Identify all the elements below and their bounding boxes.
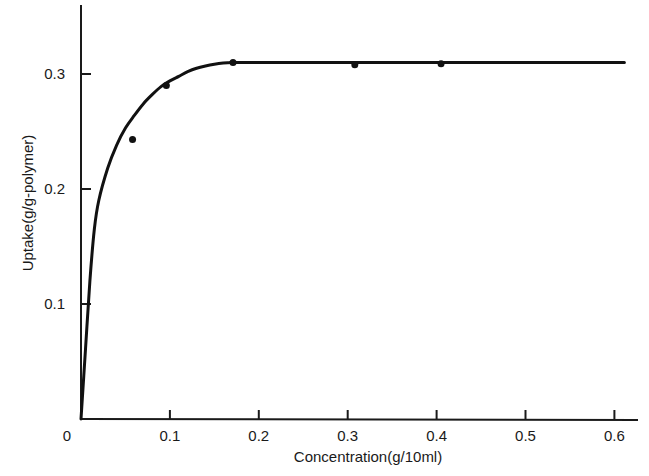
y-tick-label: 0.1: [44, 295, 65, 312]
x-tick-label: 0.6: [604, 427, 625, 444]
data-point: [163, 82, 170, 89]
points-layer: [129, 59, 444, 143]
data-point: [129, 136, 136, 143]
data-point: [230, 59, 237, 66]
y-axis-title: Uptake(g/g-polymer): [19, 135, 36, 272]
x-tick-label: 0: [63, 427, 71, 444]
x-axis-title: Concentration(g/10ml): [294, 448, 442, 465]
y-ticks: 0.10.20.3: [44, 65, 91, 312]
x-tick-label: 0.3: [337, 427, 358, 444]
y-tick-label: 0.3: [44, 65, 65, 82]
x-tick-label: 0.2: [248, 427, 269, 444]
chart: 00.10.20.30.40.50.6 0.10.20.3 Concentrat…: [0, 0, 649, 476]
data-point: [438, 60, 445, 67]
x-axis-line: [81, 419, 638, 420]
axes: [81, 5, 638, 420]
x-tick-label: 0.4: [426, 427, 447, 444]
x-ticks: 00.10.20.30.40.50.6: [63, 410, 625, 444]
fitted-curve: [81, 62, 624, 419]
x-tick-label: 0.5: [515, 427, 536, 444]
x-tick-label: 0.1: [159, 427, 180, 444]
y-tick-label: 0.2: [44, 180, 65, 197]
curve-layer: [81, 62, 624, 419]
data-point: [351, 61, 358, 68]
